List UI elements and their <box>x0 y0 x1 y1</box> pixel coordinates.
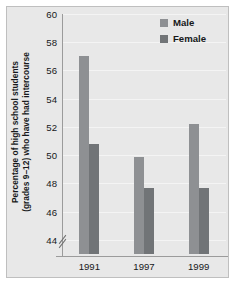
male-swatch-icon <box>160 19 168 27</box>
x-axis-tick-label: 1999 <box>188 261 209 272</box>
x-axis-line <box>56 256 228 257</box>
gridline <box>62 14 226 15</box>
x-axis-tick-label: 1997 <box>133 261 154 272</box>
y-axis-line <box>62 14 63 257</box>
y-axis-tick-label: 60 <box>46 9 57 20</box>
legend-label-female: Female <box>173 33 206 44</box>
legend-item-male[interactable]: Male <box>160 16 206 29</box>
y-axis-tick-label: 50 <box>46 150 57 161</box>
legend-label-male: Male <box>173 17 194 28</box>
y-axis-title-line-2: (grades 9–12) who have had intercourse <box>21 52 32 212</box>
y-axis-tick-label: 56 <box>46 65 57 76</box>
plot-area: 605856545250484644 <box>62 14 226 254</box>
bar-1997-female[interactable] <box>144 188 154 254</box>
y-axis-tick-label: 58 <box>46 37 57 48</box>
y-axis-tick-label: 46 <box>46 206 57 217</box>
legend: Male Female <box>160 16 206 48</box>
y-axis-tick-label: 52 <box>46 121 57 132</box>
x-axis-tick-label: 1991 <box>79 261 100 272</box>
y-axis-break-icon <box>56 234 69 248</box>
bar-1997-male[interactable] <box>134 157 144 254</box>
bar-1991-male[interactable] <box>79 56 89 254</box>
legend-item-female[interactable]: Female <box>160 32 206 45</box>
bar-1991-female[interactable] <box>89 144 99 254</box>
y-axis-tick-label: 48 <box>46 178 57 189</box>
bar-1999-female[interactable] <box>199 188 209 254</box>
y-axis-title: Percentage of high school students (grad… <box>4 12 38 252</box>
y-axis-title-line-1: Percentage of high school students <box>10 61 20 203</box>
y-axis-tick-label: 54 <box>46 93 57 104</box>
bar-1999-male[interactable] <box>189 124 199 254</box>
chart-figure: Percentage of high school students (grad… <box>0 0 235 284</box>
female-swatch-icon <box>160 35 168 43</box>
